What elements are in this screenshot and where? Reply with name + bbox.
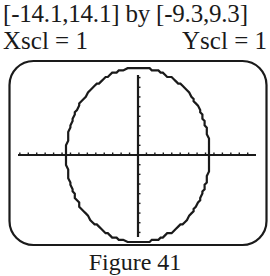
figure-caption: Figure 41 <box>0 248 270 276</box>
axes <box>18 75 256 237</box>
